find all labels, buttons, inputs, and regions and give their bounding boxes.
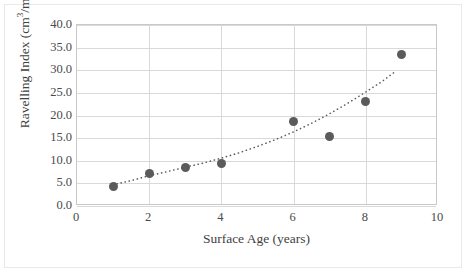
x-axis-tick-label: 0 <box>56 211 96 224</box>
data-point <box>145 169 154 178</box>
y-axis-tick-labels: 0.05.010.015.020.025.030.035.040.0 <box>0 24 72 205</box>
x-axis-title: Surface Age (years) <box>76 231 437 247</box>
y-axis-title-sup-volume: 3 <box>15 13 25 18</box>
data-point <box>217 159 226 168</box>
y-axis-tick-label: 15.0 <box>2 131 72 144</box>
y-axis-tick-label: 35.0 <box>2 40 72 53</box>
data-point <box>361 97 370 106</box>
data-point <box>181 163 190 172</box>
y-axis-title-mid: /m <box>17 0 32 13</box>
data-point <box>289 117 298 126</box>
x-axis-tick-label: 6 <box>273 211 313 224</box>
x-axis-tick-label: 2 <box>128 211 168 224</box>
y-axis-tick-label: 10.0 <box>2 154 72 167</box>
x-axis-tick-labels: 0246810 <box>76 211 437 229</box>
y-axis-tick-label: 25.0 <box>2 86 72 99</box>
y-axis-tick-label: 0.0 <box>2 199 72 212</box>
x-axis-tick-label: 10 <box>417 211 457 224</box>
y-axis-tick-label: 5.0 <box>2 176 72 189</box>
data-point <box>325 132 334 141</box>
y-axis-tick-label: 40.0 <box>2 18 72 31</box>
y-axis-tick-label: 20.0 <box>2 108 72 121</box>
trendline <box>77 25 436 204</box>
x-axis-tick-label: 4 <box>200 211 240 224</box>
y-axis-tick-label: 30.0 <box>2 63 72 76</box>
ravelling-index-scatter-chart: Ravelling Index (cm3/m2) 0.05.010.015.02… <box>0 0 466 272</box>
x-axis-tick-label: 8 <box>345 211 385 224</box>
gridline-horizontal <box>77 206 436 207</box>
plot-area <box>76 24 437 205</box>
